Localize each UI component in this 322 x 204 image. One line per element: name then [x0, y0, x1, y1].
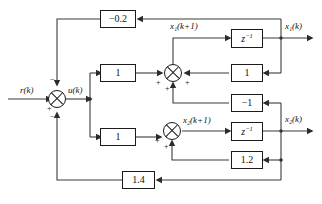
sign-summer2-bottom: + — [164, 143, 169, 151]
label-state1-next: x₁(k+1) — [170, 22, 198, 31]
label-reference-signal: r(k) — [20, 86, 34, 95]
summer-state-1[interactable] — [164, 64, 182, 82]
gain-block-forward-1[interactable]: 1 — [100, 64, 136, 82]
label-state2-output: x₂(k) — [285, 115, 302, 124]
gain-block-state1-feedback[interactable]: 1 — [231, 64, 263, 82]
wire-summer1-to-delay1 — [173, 35, 232, 64]
delay-2-label: z−1 — [241, 126, 253, 137]
wire-gain02-to-input-summer — [54, 19, 100, 87]
gain-block-1-4[interactable]: 1.4 — [122, 171, 155, 189]
gain-block-state2-feedback[interactable]: 1.2 — [231, 151, 263, 169]
label-control-signal: u(k) — [68, 86, 83, 95]
wire-a11-to-summer1 — [184, 70, 230, 76]
label-state2-next: x₂(k+1) — [183, 116, 211, 125]
unit-delay-block-1[interactable]: z−1 — [231, 29, 263, 48]
wire-reference-input — [8, 96, 53, 102]
sign-input-summer-bottom: − — [50, 113, 55, 121]
wire-a22-to-summer2 — [169, 140, 229, 161]
wire-forward1-to-summer1 — [136, 70, 164, 76]
delay-1-label: z−1 — [241, 33, 253, 44]
sign-summer1-bottom: + — [165, 85, 170, 93]
wire-summer2-to-delay2 — [182, 128, 232, 134]
gain-block-minus-0-2[interactable]: −0.2 — [100, 10, 136, 28]
wire-control-output — [66, 70, 103, 140]
sign-summer1-left: + — [156, 79, 161, 87]
wire-delay2-to-x2out — [156, 100, 314, 183]
sign-summer1-right: + — [185, 79, 190, 87]
summer-state-2[interactable] — [163, 122, 181, 140]
unit-delay-block-2[interactable]: z−1 — [231, 122, 263, 141]
gain-block-state2-to-summer1[interactable]: −1 — [231, 94, 263, 112]
sign-input-summer-top: − — [50, 76, 55, 84]
block-diagram-canvas: −0.2 1 1 z−1 z−1 1 −1 1.2 1.4 + − − + + … — [0, 0, 322, 204]
wire-a12-to-summer1 — [170, 82, 229, 104]
sign-summer2-left: + — [155, 137, 160, 145]
label-state1-output: x₁(k) — [285, 22, 302, 31]
gain-block-forward-2[interactable]: 1 — [100, 128, 136, 146]
